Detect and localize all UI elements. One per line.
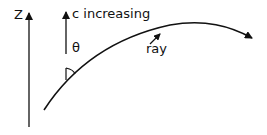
c-increasing-label: c increasing xyxy=(72,7,150,20)
z-axis-label: Z xyxy=(14,8,23,21)
ray-curve xyxy=(44,23,252,110)
ray-label: ray xyxy=(146,42,167,55)
theta-label: θ xyxy=(72,41,80,54)
ray-diagram: Z c increasing θ ray xyxy=(0,0,267,135)
